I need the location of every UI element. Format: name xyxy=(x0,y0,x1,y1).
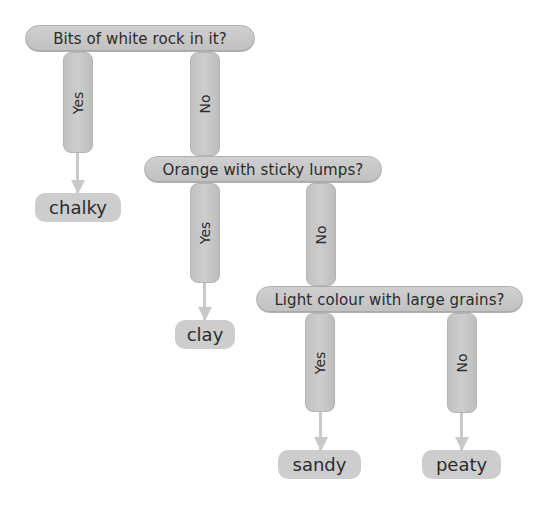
q1-no-label: No xyxy=(197,94,213,113)
arrow-to-clay-icon xyxy=(203,283,206,320)
q1-yes-label: Yes xyxy=(70,91,86,114)
result-sandy-text: sandy xyxy=(293,454,347,475)
q3-yes-label: Yes xyxy=(312,351,328,374)
q3-no-label: No xyxy=(454,353,470,372)
arrow-to-chalky-icon xyxy=(76,153,79,193)
result-chalky-text: chalky xyxy=(49,197,107,218)
arrow-to-sandy-icon xyxy=(319,412,322,450)
question-1-bar: Bits of white rock in it? xyxy=(25,25,255,52)
q3-no-branch: No xyxy=(447,313,477,413)
result-sandy: sandy xyxy=(278,450,361,479)
question-2-text: Orange with sticky lumps? xyxy=(163,161,364,179)
q1-yes-branch: Yes xyxy=(63,52,93,153)
question-3-text: Light colour with large grains? xyxy=(274,291,504,309)
question-2-bar: Orange with sticky lumps? xyxy=(144,156,382,183)
q2-yes-label: Yes xyxy=(197,222,213,245)
result-peaty-text: peaty xyxy=(436,454,487,475)
question-1-text: Bits of white rock in it? xyxy=(53,30,227,48)
result-clay-text: clay xyxy=(187,324,224,345)
q3-yes-branch: Yes xyxy=(305,313,335,412)
q1-no-branch: No xyxy=(190,52,220,156)
q2-no-branch: No xyxy=(306,183,336,286)
result-clay: clay xyxy=(175,320,235,349)
question-3-bar: Light colour with large grains? xyxy=(256,286,523,313)
arrow-to-peaty-icon xyxy=(460,413,463,450)
q2-no-label: No xyxy=(313,225,329,244)
result-chalky: chalky xyxy=(35,193,121,222)
result-peaty: peaty xyxy=(422,450,501,479)
q2-yes-branch: Yes xyxy=(190,183,220,283)
